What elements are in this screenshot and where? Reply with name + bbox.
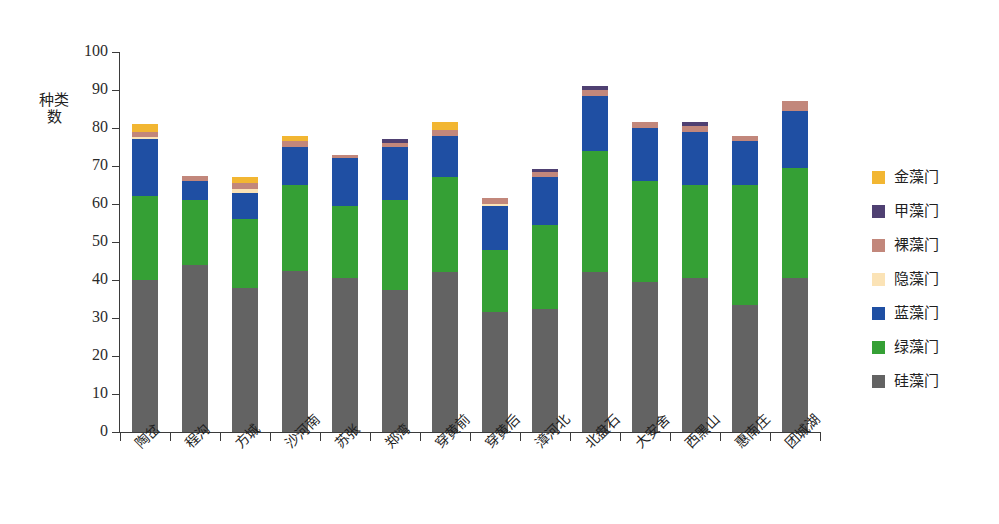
legend-swatch-icon bbox=[872, 307, 885, 320]
bar-segment bbox=[432, 177, 458, 272]
bar-segment bbox=[632, 128, 658, 181]
chart-legend: 金藻门甲藻门裸藻门隐藻门蓝藻门绿藻门硅藻门 bbox=[872, 160, 992, 398]
bar-3[interactable] bbox=[232, 177, 258, 432]
y-tick-label: 50 bbox=[64, 233, 108, 249]
x-tick-mark bbox=[320, 433, 321, 441]
legend-label: 蓝藻门 bbox=[894, 306, 939, 321]
x-tick-mark bbox=[720, 433, 721, 441]
bar-13[interactable] bbox=[732, 136, 758, 432]
bar-8[interactable] bbox=[482, 198, 508, 432]
legend-item[interactable]: 金藻门 bbox=[872, 160, 992, 194]
legend-label: 裸藻门 bbox=[894, 238, 939, 253]
x-tick-mark bbox=[820, 433, 821, 441]
x-tick-mark bbox=[220, 433, 221, 441]
bar-segment bbox=[732, 141, 758, 185]
bar-segment bbox=[482, 206, 508, 250]
x-tick-mark bbox=[470, 433, 471, 441]
y-tick-label: 40 bbox=[64, 271, 108, 287]
bar-11[interactable] bbox=[632, 122, 658, 432]
bar-7[interactable] bbox=[432, 122, 458, 432]
x-tick-mark bbox=[270, 433, 271, 441]
bar-segment bbox=[132, 196, 158, 280]
bar-segment bbox=[282, 271, 308, 433]
bar-segment bbox=[482, 250, 508, 313]
x-tick-mark bbox=[370, 433, 371, 441]
bar-segment bbox=[582, 272, 608, 432]
y-tick-label: 100 bbox=[64, 43, 108, 59]
bar-segment bbox=[182, 181, 208, 200]
bar-segment bbox=[332, 158, 358, 206]
legend-item[interactable]: 裸藻门 bbox=[872, 228, 992, 262]
bar-12[interactable] bbox=[682, 122, 708, 432]
bar-segment bbox=[682, 132, 708, 185]
legend-swatch-icon bbox=[872, 375, 885, 388]
bar-segment bbox=[682, 185, 708, 278]
legend-label: 绿藻门 bbox=[894, 340, 939, 355]
y-tick-label: 70 bbox=[64, 157, 108, 173]
bar-segment bbox=[282, 147, 308, 185]
bar-segment bbox=[532, 177, 558, 225]
bar-14[interactable] bbox=[782, 101, 808, 432]
x-tick-mark bbox=[170, 433, 171, 441]
bar-segment bbox=[282, 185, 308, 271]
bar-segment bbox=[432, 272, 458, 432]
bar-segment bbox=[732, 185, 758, 305]
bar-10[interactable] bbox=[582, 86, 608, 432]
y-tick-mark bbox=[112, 280, 119, 281]
bar-segment bbox=[532, 225, 558, 309]
bar-6[interactable] bbox=[382, 139, 408, 432]
legend-label: 金藻门 bbox=[894, 170, 939, 185]
bar-segment bbox=[232, 193, 258, 220]
bar-segment bbox=[432, 136, 458, 178]
y-tick-mark bbox=[112, 394, 119, 395]
legend-item[interactable]: 隐藻门 bbox=[872, 262, 992, 296]
y-tick-label: 20 bbox=[64, 347, 108, 363]
bar-segment bbox=[782, 111, 808, 168]
bar-segment bbox=[132, 280, 158, 432]
bar-segment bbox=[782, 278, 808, 432]
y-tick-mark bbox=[112, 128, 119, 129]
legend-label: 硅藻门 bbox=[894, 374, 939, 389]
x-tick-mark bbox=[770, 433, 771, 441]
bar-segment bbox=[232, 219, 258, 287]
bar-segment bbox=[132, 139, 158, 196]
y-tick-label: 10 bbox=[64, 385, 108, 401]
x-tick-mark bbox=[520, 433, 521, 441]
bar-segment bbox=[582, 96, 608, 151]
bar-segment bbox=[332, 278, 358, 432]
bar-segment bbox=[782, 101, 808, 111]
bar-segment bbox=[432, 122, 458, 130]
legend-swatch-icon bbox=[872, 239, 885, 252]
legend-label: 甲藻门 bbox=[894, 204, 939, 219]
legend-item[interactable]: 绿藻门 bbox=[872, 330, 992, 364]
y-tick-mark bbox=[112, 356, 119, 357]
y-tick-label: 80 bbox=[64, 119, 108, 135]
bar-segment bbox=[382, 290, 408, 433]
y-tick-label: 60 bbox=[64, 195, 108, 211]
bar-1[interactable] bbox=[132, 124, 158, 432]
bar-segment bbox=[532, 309, 558, 433]
bar-segment bbox=[732, 305, 758, 432]
bar-segment bbox=[132, 124, 158, 132]
bar-5[interactable] bbox=[332, 155, 358, 432]
bar-segment bbox=[632, 282, 658, 432]
legend-item[interactable]: 蓝藻门 bbox=[872, 296, 992, 330]
legend-swatch-icon bbox=[872, 205, 885, 218]
bar-9[interactable] bbox=[532, 169, 558, 432]
y-tick-mark bbox=[112, 52, 119, 53]
bar-segment bbox=[382, 147, 408, 200]
bar-4[interactable] bbox=[282, 136, 308, 432]
bar-2[interactable] bbox=[182, 176, 208, 432]
x-tick-mark bbox=[570, 433, 571, 441]
legend-swatch-icon bbox=[872, 171, 885, 184]
bar-segment bbox=[582, 151, 608, 273]
bar-segment bbox=[182, 265, 208, 432]
x-tick-mark bbox=[670, 433, 671, 441]
bar-segment bbox=[382, 200, 408, 289]
legend-item[interactable]: 硅藻门 bbox=[872, 364, 992, 398]
y-tick-mark bbox=[112, 242, 119, 243]
x-tick-mark bbox=[120, 433, 121, 441]
y-tick-label: 30 bbox=[64, 309, 108, 325]
legend-item[interactable]: 甲藻门 bbox=[872, 194, 992, 228]
x-tick-mark bbox=[620, 433, 621, 441]
